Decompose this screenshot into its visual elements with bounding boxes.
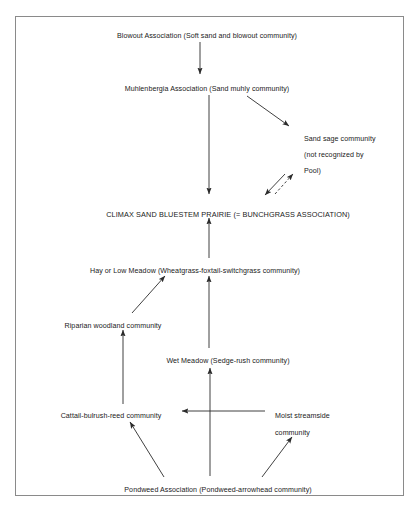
node-hay-or-low-meadow: Hay or Low Meadow (Wheatgrass-foxtail-sw… <box>90 266 300 278</box>
node-sand-sage-community-line3: Pool) <box>304 166 321 178</box>
edge-riparian-to-hay-meadow <box>132 276 165 313</box>
edge-pondweed-to-moist-streamside <box>262 437 292 477</box>
edge-sandsage-to-climax <box>265 174 285 195</box>
node-wet-meadow: Wet Meadow (Sedge-rush community) <box>166 356 289 368</box>
node-moist-streamside-community-line1: Moist streamside <box>275 411 330 423</box>
node-sand-sage-community-line1: Sand sage community <box>304 134 376 146</box>
arrow-layer <box>0 0 419 511</box>
node-riparian-woodland-community: Riparian woodland community <box>65 321 162 333</box>
node-moist-streamside-community-line2: community <box>275 428 310 440</box>
edge-muhlenbergia-to-sandsage <box>247 96 289 126</box>
node-sand-sage-community-line2: (not recognized by <box>304 150 364 162</box>
edge-climax-to-sandsage-dashed <box>275 174 293 194</box>
edge-pondweed-to-cattail <box>130 422 164 477</box>
node-climax-sand-bluestem-prairie: CLIMAX SAND BLUESTEM PRAIRIE (= BUNCHGRA… <box>106 209 350 221</box>
node-blowout-association: Blowout Association (Soft sand and blowo… <box>117 31 297 43</box>
node-pondweed-association: Pondweed Association (Pondweed-arrowhead… <box>124 485 311 497</box>
succession-diagram: Blowout Association (Soft sand and blowo… <box>0 0 419 511</box>
node-cattail-bulrush-reed-community: Cattail-bulrush-reed community <box>61 411 162 423</box>
node-muhlenbergia-association: Muhlenbergia Association (Sand muhly com… <box>125 84 290 96</box>
